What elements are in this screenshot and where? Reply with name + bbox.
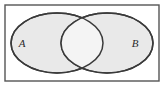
venn-diagram-canvas: A B (0, 0, 164, 86)
set-a-label: A (18, 37, 26, 49)
venn-diagram-figure: A B (0, 0, 164, 86)
set-b-label: B (132, 37, 139, 49)
